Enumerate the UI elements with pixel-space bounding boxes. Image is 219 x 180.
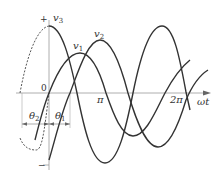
theta2-label: θ2 — [29, 110, 40, 123]
y-minus-label: − — [38, 160, 46, 170]
v3-label: v3 — [53, 12, 63, 25]
waveform-diagram: + v3 v1 v2 0 π 2π ωt θ2 θ1 − — [0, 0, 219, 180]
theta1-label: θ1 — [55, 110, 66, 123]
v2-curve — [49, 40, 208, 160]
v2-label: v2 — [94, 28, 104, 41]
arrow-icon — [65, 122, 70, 125]
pi-tick-label: π — [96, 94, 104, 105]
two-pi-tick-label: 2π — [169, 94, 183, 105]
arrow-icon — [49, 122, 54, 125]
v1-label: v1 — [73, 40, 83, 53]
x-axis-label: ωt — [197, 96, 210, 107]
y-plus-label: + — [40, 14, 48, 24]
x-axis-arrow-icon — [203, 91, 211, 96]
origin-label: 0 — [41, 83, 47, 93]
arrow-icon — [22, 122, 27, 125]
